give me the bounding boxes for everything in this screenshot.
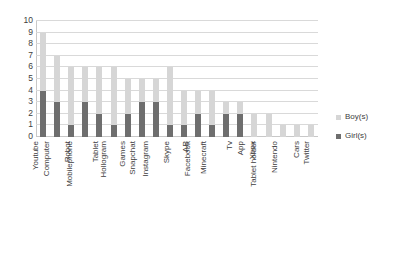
- x-label-slot: Mobilephone: [78, 139, 92, 249]
- bar-segment-girls[interactable]: [153, 102, 159, 137]
- x-label-slot: App: [233, 139, 247, 249]
- legend-item[interactable]: Boy(s): [336, 112, 398, 122]
- x-axis-category-label: Cars: [292, 141, 300, 158]
- bar-segment-boys[interactable]: [167, 67, 173, 125]
- x-label-slot: Instagram: [149, 139, 163, 249]
- bar-segment-girls[interactable]: [54, 102, 60, 137]
- bar-slot[interactable]: [163, 20, 177, 137]
- bar-segment-girls[interactable]: [209, 125, 215, 137]
- bar-segment-girls[interactable]: [181, 125, 187, 137]
- bar-segment-boys[interactable]: [181, 91, 187, 126]
- bar-segment-boys[interactable]: [82, 67, 88, 102]
- x-axis-category-label: Games: [119, 141, 127, 167]
- y-axis-tick-labels: 109876543210: [0, 0, 33, 254]
- bar-segment-boys[interactable]: [308, 125, 314, 137]
- bar-segment-girls[interactable]: [139, 102, 145, 137]
- bar-stack[interactable]: [181, 91, 187, 137]
- bar-stack[interactable]: [167, 67, 173, 137]
- bar-slot[interactable]: [92, 20, 106, 137]
- bar-stack[interactable]: [125, 79, 131, 137]
- bar-segment-boys[interactable]: [195, 91, 201, 114]
- bar-stack[interactable]: [195, 91, 201, 137]
- bar-segment-girls[interactable]: [40, 91, 46, 137]
- legend-swatch-icon: [336, 134, 341, 139]
- bar-stack[interactable]: [308, 125, 314, 137]
- chart-legend: Boy(s)Girl(s): [336, 112, 398, 150]
- bar-slot[interactable]: [106, 20, 120, 137]
- bar-stack[interactable]: [54, 56, 60, 137]
- legend-label: Boy(s): [345, 113, 368, 121]
- bar-segment-girls[interactable]: [82, 102, 88, 137]
- x-axis-category-label: Nintendo: [271, 141, 279, 173]
- bar-segment-boys[interactable]: [54, 56, 60, 102]
- bar-stack[interactable]: [82, 67, 88, 137]
- bar-segment-girls[interactable]: [223, 114, 229, 137]
- bar-slot[interactable]: [304, 20, 318, 137]
- bar-segment-girls[interactable]: [237, 114, 243, 137]
- bar-segment-boys[interactable]: [266, 114, 272, 137]
- bar-stack[interactable]: [294, 125, 300, 137]
- bar-segment-girls[interactable]: [96, 114, 102, 137]
- bar-slot[interactable]: [233, 20, 247, 137]
- bar-segment-girls[interactable]: [195, 114, 201, 137]
- bar-slot[interactable]: [276, 20, 290, 137]
- bar-stack[interactable]: [96, 67, 102, 137]
- bar-segment-girls[interactable]: [68, 125, 74, 137]
- bar-slot[interactable]: [149, 20, 163, 137]
- x-label-slot: Minecraft: [205, 139, 219, 249]
- bar-segment-boys[interactable]: [209, 91, 215, 126]
- bar-stack[interactable]: [68, 67, 74, 137]
- bar-segment-girls[interactable]: [111, 125, 117, 137]
- x-axis-category-label: Hollogram: [99, 141, 107, 177]
- x-axis-category-label: Snapchat: [129, 141, 137, 175]
- bar-stack[interactable]: [280, 125, 286, 137]
- bar-segment-boys[interactable]: [68, 67, 74, 125]
- bar-slot[interactable]: [290, 20, 304, 137]
- bar-segment-boys[interactable]: [139, 79, 145, 102]
- bar-stack[interactable]: [266, 114, 272, 137]
- bar-segment-boys[interactable]: [125, 79, 131, 114]
- bar-segment-boys[interactable]: [251, 114, 257, 137]
- bar-slot[interactable]: [121, 20, 135, 137]
- bar-slot[interactable]: [177, 20, 191, 137]
- bar-stack[interactable]: [139, 79, 145, 137]
- bar-stack[interactable]: [223, 102, 229, 137]
- bar-slot[interactable]: [219, 20, 233, 137]
- bar-stack[interactable]: [153, 79, 159, 137]
- y-axis-tick-label: 2: [3, 109, 33, 118]
- bar-segment-boys[interactable]: [280, 125, 286, 137]
- bar-segment-boys[interactable]: [40, 33, 46, 91]
- x-label-slot: Nintendo: [276, 139, 290, 249]
- legend-item[interactable]: Girl(s): [336, 131, 398, 141]
- y-axis-tick-label: 4: [3, 85, 33, 94]
- bar-stack[interactable]: [237, 102, 243, 137]
- bar-segment-boys[interactable]: [237, 102, 243, 114]
- bar-segment-boys[interactable]: [223, 102, 229, 114]
- bar-slot[interactable]: [64, 20, 78, 137]
- bar-segment-boys[interactable]: [153, 79, 159, 102]
- bar-stack[interactable]: [111, 67, 117, 137]
- bar-slot[interactable]: [135, 20, 149, 137]
- bar-segment-boys[interactable]: [111, 67, 117, 125]
- bar-slot[interactable]: [36, 20, 50, 137]
- bar-segment-boys[interactable]: [294, 125, 300, 137]
- y-axis-tick-label: 6: [3, 62, 33, 71]
- legend-label: Girl(s): [345, 132, 367, 140]
- bar-slot[interactable]: [262, 20, 276, 137]
- y-axis-tick-label: 0: [3, 132, 33, 141]
- y-axis-tick-label: 10: [3, 16, 33, 25]
- bar-stack[interactable]: [251, 114, 257, 137]
- bar-slot[interactable]: [205, 20, 219, 137]
- bar-slot[interactable]: [247, 20, 261, 137]
- y-axis-tick-label: 8: [3, 39, 33, 48]
- bar-slot[interactable]: [191, 20, 205, 137]
- bar-stack[interactable]: [209, 91, 215, 137]
- bar-slot[interactable]: [78, 20, 92, 137]
- bar-slot[interactable]: [50, 20, 64, 137]
- bar-segment-boys[interactable]: [96, 67, 102, 113]
- x-label-slot: Tv: [219, 139, 233, 249]
- bar-stack[interactable]: [40, 33, 46, 137]
- x-axis-category-label: App: [237, 141, 245, 155]
- bar-segment-girls[interactable]: [167, 125, 173, 137]
- bar-segment-girls[interactable]: [125, 114, 131, 137]
